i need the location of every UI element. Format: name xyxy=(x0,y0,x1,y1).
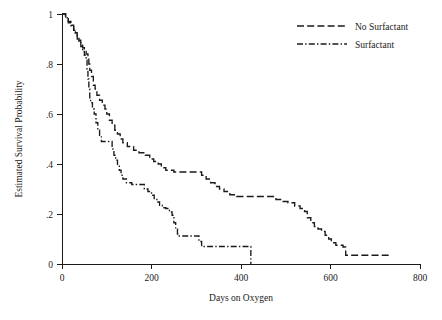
y-tick-label-0.6: .6 xyxy=(46,110,53,120)
chart-canvas: 1 .8 .6 .4 .2 0 0 200 400 600 800 Days o… xyxy=(0,0,442,320)
x-tick-label-600: 600 xyxy=(323,273,338,283)
legend-label-surfactant: Surfactant xyxy=(355,40,394,50)
y-tick-label-1: 1 xyxy=(48,10,53,20)
x-tick-label-400: 400 xyxy=(234,273,249,283)
x-axis-title: Days on Oxygen xyxy=(209,293,273,303)
y-axis-tick-labels: 1 .8 .6 .4 .2 0 xyxy=(46,10,53,270)
series-line-surfactant xyxy=(62,14,251,264)
y-tick-label-0.2: .2 xyxy=(46,210,53,220)
x-axis-ticks xyxy=(62,264,420,269)
x-tick-label-0: 0 xyxy=(60,273,65,283)
x-tick-label-200: 200 xyxy=(144,273,159,283)
legend-label-no-surfactant: No Surfactant xyxy=(355,22,408,32)
chart-legend: No Surfactant Surfactant xyxy=(297,22,408,50)
x-tick-label-800: 800 xyxy=(413,273,428,283)
survival-chart-figure: 1 .8 .6 .4 .2 0 0 200 400 600 800 Days o… xyxy=(0,0,442,320)
y-tick-label-0: 0 xyxy=(48,260,53,270)
series-line-no-surfactant xyxy=(62,14,389,255)
y-tick-label-0.8: .8 xyxy=(46,60,53,70)
y-axis-title: Estimated Survival Probability xyxy=(14,80,24,197)
y-axis-ticks xyxy=(57,14,62,264)
y-tick-label-0.4: .4 xyxy=(46,160,53,170)
x-axis-tick-labels: 0 200 400 600 800 xyxy=(60,273,428,283)
